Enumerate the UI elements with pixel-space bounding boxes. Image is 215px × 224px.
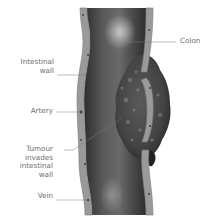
label-artery: Artery — [31, 107, 53, 116]
label-intestinal-wall-line2: wall — [21, 67, 54, 76]
lumen-highlight — [104, 14, 136, 50]
label-tumour-line4: wall — [20, 171, 53, 180]
colon-tumour-diagram: Colon Intestinal wall Artery Tumour inva… — [0, 0, 215, 224]
label-intestinal-wall: Intestinal wall — [21, 58, 54, 75]
label-tumour: Tumour invades intestinal wall — [20, 145, 53, 179]
label-vein: Vein — [38, 192, 53, 201]
label-colon: Colon — [180, 37, 200, 46]
